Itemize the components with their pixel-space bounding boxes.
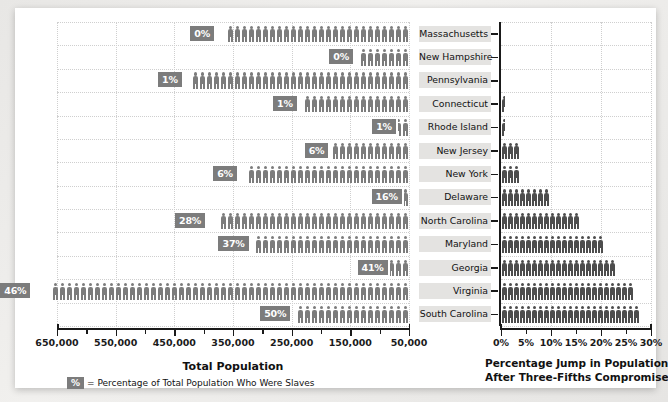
- person-icon: [297, 233, 304, 255]
- person-icon: [395, 280, 402, 302]
- person-icon: [304, 280, 311, 302]
- person-icon: [388, 140, 395, 162]
- person-icon: [353, 140, 360, 162]
- person-icon: [262, 163, 269, 185]
- state-tick: [491, 103, 498, 105]
- jump-bar-row: [501, 257, 651, 279]
- jump-pictogram-bar: [501, 116, 505, 138]
- jump-bar-row: [501, 186, 651, 208]
- population-pictogram-bar: [299, 93, 409, 115]
- person-icon: [339, 233, 346, 255]
- person-icon: [227, 280, 234, 302]
- axis-tick: [350, 330, 351, 336]
- person-icon: [332, 93, 339, 115]
- person-icon: [297, 23, 304, 45]
- person-icon: [395, 93, 402, 115]
- slave-percentage-label: 6%: [305, 143, 329, 158]
- person-icon: [501, 93, 505, 113]
- person-icon: [381, 233, 388, 255]
- jump-pictogram-bar: [501, 140, 519, 162]
- state-name: Georgia: [419, 260, 488, 276]
- state-label-row: South Carolina: [419, 306, 497, 322]
- person-icon: [325, 233, 332, 255]
- state-label-row: Massachusetts: [419, 26, 497, 42]
- state-name: South Carolina: [419, 306, 488, 322]
- person-icon: [339, 93, 346, 115]
- person-icon: [248, 210, 255, 232]
- person-icon: [283, 163, 290, 185]
- state-name: Connecticut: [419, 96, 488, 112]
- gridline-horizontal: [57, 326, 409, 327]
- person-icon: [388, 280, 395, 302]
- person-icon: [318, 303, 325, 325]
- state-name: Virginia: [419, 283, 488, 299]
- person-icon: [304, 93, 311, 115]
- person-icon: [339, 69, 346, 91]
- state-tick: [491, 127, 498, 129]
- person-icon: [73, 280, 80, 302]
- person-icon: [367, 210, 374, 232]
- person-icon: [360, 163, 367, 185]
- person-icon: [318, 280, 325, 302]
- person-icon: [597, 233, 603, 253]
- person-icon: [395, 233, 402, 255]
- person-icon: [404, 186, 409, 208]
- jump-bar-row: [501, 280, 651, 302]
- person-icon: [346, 69, 353, 91]
- axis-tick: [174, 330, 175, 336]
- state-tick: [491, 197, 498, 199]
- person-icon: [304, 163, 311, 185]
- legend: %= Percentage of Total Population Who We…: [67, 377, 315, 389]
- person-icon: [290, 233, 297, 255]
- person-icon: [395, 46, 402, 68]
- person-icon: [318, 210, 325, 232]
- person-icon: [269, 233, 276, 255]
- person-icon: [346, 210, 353, 232]
- person-icon: [332, 23, 339, 45]
- slave-percentage-label: 1%: [158, 72, 182, 87]
- person-icon: [220, 280, 227, 302]
- person-icon: [374, 233, 381, 255]
- slave-percentage-label: 1%: [273, 96, 297, 111]
- jump-pictogram-bar: [501, 257, 624, 279]
- page-background: 0%0%1%1%1%6%6%16%28%37%41%46%50% Massach…: [0, 0, 668, 402]
- state-name: New Jersey: [419, 143, 488, 159]
- jump-bar-row: [501, 46, 651, 68]
- legend-text: = Percentage of Total Population Who Wer…: [87, 378, 315, 388]
- population-bar-row: 16%: [57, 186, 409, 208]
- person-icon: [395, 257, 402, 279]
- person-icon: [94, 280, 101, 302]
- axis-tick-label: 350,000: [203, 337, 263, 348]
- axis-minor-tick: [204, 330, 205, 334]
- person-icon: [346, 280, 353, 302]
- person-icon: [290, 69, 297, 91]
- person-icon: [80, 280, 87, 302]
- person-icon: [367, 93, 374, 115]
- population-pictogram-bar: [184, 69, 409, 91]
- gridline-horizontal: [501, 326, 651, 327]
- state-name: Delaware: [419, 189, 488, 205]
- person-icon: [332, 233, 339, 255]
- person-icon: [367, 303, 374, 325]
- person-icon: [213, 69, 220, 91]
- population-bar-row: 41%: [57, 257, 409, 279]
- state-tick: [491, 33, 498, 35]
- person-icon: [318, 23, 325, 45]
- person-icon: [227, 210, 234, 232]
- infographic-card: 0%0%1%1%1%6%6%16%28%37%41%46%50% Massach…: [15, 8, 656, 388]
- state-label-column: MassachusettsNew HampshirePennsylvaniaCo…: [419, 22, 497, 326]
- population-pictogram-bar: [32, 280, 409, 302]
- state-name: Massachusetts: [419, 26, 488, 42]
- person-icon: [402, 257, 409, 279]
- state-tick: [491, 174, 498, 176]
- person-icon: [248, 163, 255, 185]
- person-icon: [59, 280, 66, 302]
- person-icon: [395, 23, 402, 45]
- state-name: Pennsylvania: [419, 72, 488, 88]
- person-icon: [325, 93, 332, 115]
- legend-chip: %: [67, 377, 84, 389]
- axis-endcap: [57, 324, 59, 329]
- slave-percentage-label: 50%: [260, 306, 290, 321]
- person-icon: [276, 69, 283, 91]
- jump-pictogram-bar: [501, 163, 519, 185]
